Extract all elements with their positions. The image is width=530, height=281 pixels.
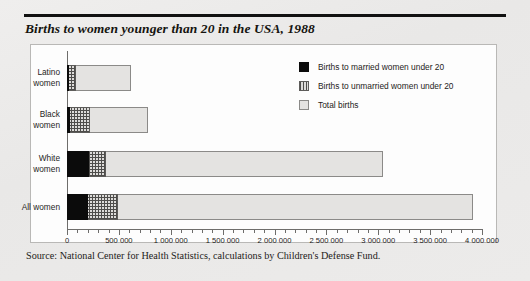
bar-segment-unmarried bbox=[67, 107, 90, 133]
x-axis-tick-minor bbox=[389, 230, 390, 233]
x-axis-tick-major bbox=[223, 230, 224, 235]
x-axis-tick-label: 3 500 000 bbox=[413, 236, 447, 245]
x-axis-tick-minor bbox=[160, 230, 161, 233]
legend-item: Total births bbox=[299, 95, 453, 114]
category-label: Blackwomen bbox=[33, 109, 60, 131]
x-axis-tick-minor bbox=[109, 230, 110, 233]
x-axis-tick-minor bbox=[441, 230, 442, 233]
source-note: Source: National Center for Health Stati… bbox=[26, 250, 380, 261]
x-axis-tick-label: 2 000 000 bbox=[258, 236, 292, 245]
x-axis-tick-minor bbox=[461, 230, 462, 233]
x-axis-tick-minor bbox=[202, 230, 203, 233]
x-axis-tick-minor bbox=[316, 230, 317, 233]
x-axis-tick-major bbox=[119, 230, 120, 235]
bar-segment-total bbox=[67, 151, 383, 177]
bar-segment-married bbox=[67, 151, 89, 177]
figure: Births to women younger than 20 in the U… bbox=[0, 0, 530, 281]
chart-legend: Births to married women under 20Births t… bbox=[299, 57, 453, 114]
x-axis-tick-minor bbox=[285, 230, 286, 233]
x-axis-tick-minor bbox=[358, 230, 359, 233]
x-axis-tick-minor bbox=[399, 230, 400, 233]
x-axis-tick-minor bbox=[368, 230, 369, 233]
bar-segment-married bbox=[67, 194, 88, 220]
x-axis-tick-minor bbox=[212, 230, 213, 233]
x-axis-tick-label: 3 000 000 bbox=[361, 236, 395, 245]
bar-segment-total bbox=[67, 194, 473, 220]
x-axis-tick-major bbox=[67, 230, 68, 235]
x-axis-tick-minor bbox=[451, 230, 452, 233]
x-axis-tick-label: 4 000 000 bbox=[465, 236, 499, 245]
legend-item: Births to married women under 20 bbox=[299, 57, 453, 76]
x-axis-tick-minor bbox=[254, 230, 255, 233]
x-axis-tick-label: 1 500 000 bbox=[206, 236, 240, 245]
category-label: Latinowomen bbox=[33, 67, 60, 89]
x-axis-tick-minor bbox=[472, 230, 473, 233]
x-axis-tick-label: 500 000 bbox=[105, 236, 132, 245]
legend-swatch-total bbox=[299, 100, 309, 110]
x-axis-tick-minor bbox=[192, 230, 193, 233]
x-axis-tick-minor bbox=[77, 230, 78, 233]
legend-label: Total births bbox=[318, 100, 359, 110]
x-axis-tick-major bbox=[482, 230, 483, 235]
bar-segment-total bbox=[67, 65, 131, 91]
category-label: Whitewomen bbox=[33, 153, 60, 175]
x-axis-tick-major bbox=[171, 230, 172, 235]
x-axis-tick-minor bbox=[420, 230, 421, 233]
x-axis-tick-minor bbox=[409, 230, 410, 233]
x-axis-tick-minor bbox=[181, 230, 182, 233]
x-axis-tick-label: 0 bbox=[65, 236, 69, 245]
x-axis-tick-minor bbox=[243, 230, 244, 233]
x-axis-tick-label: 2 500 000 bbox=[309, 236, 343, 245]
bar-segment-married bbox=[67, 65, 69, 91]
x-axis-tick-major bbox=[378, 230, 379, 235]
category-label: All women bbox=[22, 202, 60, 213]
legend-swatch-married bbox=[299, 62, 309, 72]
legend-label: Births to married women under 20 bbox=[318, 62, 444, 72]
bar-group: Whitewomen bbox=[67, 151, 482, 177]
x-axis-tick-major bbox=[430, 230, 431, 235]
x-axis-tick-minor bbox=[150, 230, 151, 233]
chart-panel: LatinowomenBlackwomenWhitewomenAll women… bbox=[30, 44, 497, 243]
legend-swatch-unmarried bbox=[299, 81, 309, 91]
bar-segment-married bbox=[67, 107, 70, 133]
x-axis-tick-major bbox=[275, 230, 276, 235]
x-axis-tick-label: 1 000 000 bbox=[154, 236, 188, 245]
x-axis-tick-minor bbox=[88, 230, 89, 233]
x-axis-tick-minor bbox=[140, 230, 141, 233]
x-axis-tick-minor bbox=[306, 230, 307, 233]
x-axis-tick-minor bbox=[98, 230, 99, 233]
legend-item: Births to unmarried women under 20 bbox=[299, 76, 453, 95]
x-axis-tick-major bbox=[326, 230, 327, 235]
header-rule bbox=[24, 14, 506, 17]
x-axis-tick-minor bbox=[233, 230, 234, 233]
x-axis-tick-minor bbox=[347, 230, 348, 233]
chart-title: Births to women younger than 20 in the U… bbox=[25, 21, 315, 37]
bar-group: All women bbox=[67, 194, 482, 220]
x-axis-tick-minor bbox=[295, 230, 296, 233]
x-axis-tick-minor bbox=[337, 230, 338, 233]
legend-label: Births to unmarried women under 20 bbox=[318, 81, 453, 91]
x-axis-tick-minor bbox=[129, 230, 130, 233]
x-axis-tick-minor bbox=[264, 230, 265, 233]
